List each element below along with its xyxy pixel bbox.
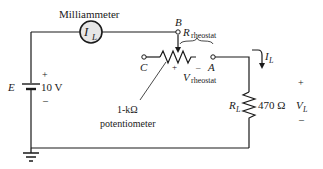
load-name: R [228,99,236,111]
potentiometer-label: potentiometer [100,118,156,129]
load-name-sub: L [235,105,241,114]
source-value: 10 V [41,81,63,93]
terminal-c [142,55,146,59]
load-minus: – [298,114,305,125]
meter-subscript: L [91,32,97,42]
terminal-b-label: B [175,16,182,28]
current-sub: L [268,56,274,65]
source-name: E [7,81,15,93]
potentiometer-value: 1-kΩ [117,104,138,115]
meter-symbol: I [83,24,89,39]
ground-icon [23,148,39,161]
rheostat-v: V [183,71,191,83]
rheostat-v-sub: rheostat [191,76,217,85]
wiper-arrowhead [175,47,181,53]
rheostat-minus: – [195,62,201,72]
current-arrow [252,50,262,64]
terminal-a [211,55,215,59]
load-voltage-sub: L [302,105,308,114]
circuit-diagram: I L Milliammeter + E 10 V – B C A R rheo… [0,0,323,169]
source-plus: + [42,69,48,80]
load-resistor [243,92,255,148]
rheostat-r-sub: rheostat [191,31,217,40]
load-value: 470 Ω [258,99,285,111]
terminal-c-label: C [140,61,148,73]
meter-label: Milliammeter [59,8,120,20]
terminal-b [176,30,180,34]
rheostat-plus: + [172,62,177,72]
load-plus: + [298,77,304,88]
current-arrowhead [259,63,265,69]
terminal-a-label: A [207,61,215,73]
rheostat-r: R [182,26,190,38]
source-minus: – [42,95,49,106]
wire-a [215,57,249,92]
